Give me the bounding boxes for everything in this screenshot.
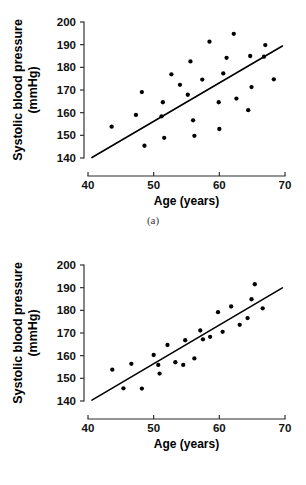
x-axis-tick-label: 50 (147, 179, 160, 191)
data-point (134, 113, 138, 117)
y-axis-title-line2: (mmHg) (26, 309, 40, 356)
data-point (186, 93, 190, 97)
y-axis-tick-label: 180 (57, 61, 76, 73)
data-point (249, 297, 253, 301)
data-point (229, 304, 233, 308)
data-point (192, 356, 196, 360)
panel-b: 14015016017018019020040506070Age (years)… (0, 243, 306, 485)
panel-a-caption: (a) (0, 214, 306, 226)
data-point (248, 54, 252, 58)
data-point (261, 306, 265, 310)
data-point (217, 127, 221, 131)
y-axis-tick-label: 200 (57, 16, 76, 28)
data-point (110, 368, 114, 372)
data-point (178, 83, 182, 87)
y-axis-tick-label: 150 (57, 129, 76, 141)
data-point (220, 330, 224, 334)
data-point (109, 125, 113, 129)
data-point (249, 85, 253, 89)
regression-line (92, 288, 282, 400)
data-point (224, 56, 228, 60)
y-axis-title-line1: Systolic blood pressure (11, 19, 25, 161)
data-point (165, 343, 169, 347)
plot-area: 14015016017018019020040506070Age (years)… (11, 259, 291, 451)
data-point (142, 144, 146, 148)
data-point (216, 310, 220, 314)
y-axis-title: Systolic blood pressure(mmHg) (11, 19, 40, 161)
data-point (234, 96, 238, 100)
y-axis-tick-label: 160 (57, 107, 76, 119)
data-point (188, 59, 192, 63)
data-point (159, 114, 163, 118)
data-point (129, 362, 133, 366)
data-point (200, 77, 204, 81)
y-axis-title: Systolic blood pressure(mmHg) (11, 262, 40, 404)
data-points (109, 32, 276, 148)
y-axis-tick-label: 160 (57, 350, 76, 362)
data-point (238, 323, 242, 327)
x-axis-tick-label: 50 (147, 422, 160, 434)
y-axis-tick-label: 190 (57, 39, 76, 51)
x-axis-tick-label: 60 (213, 422, 226, 434)
data-points (110, 282, 265, 391)
regression-line (92, 46, 282, 158)
data-point (208, 335, 212, 339)
scatter-plot-a: 14015016017018019020040506070Age (years)… (0, 0, 306, 214)
data-point (152, 353, 156, 357)
x-axis-title: Age (years) (154, 194, 219, 208)
data-point (245, 316, 249, 320)
data-point (192, 134, 196, 138)
plot-area: 14015016017018019020040506070Age (years)… (11, 16, 291, 208)
data-point (201, 337, 205, 341)
x-axis-tick-label: 60 (213, 179, 226, 191)
y-axis-title-line1: Systolic blood pressure (11, 262, 25, 404)
x-axis-title: Age (years) (154, 437, 219, 451)
data-point (263, 43, 267, 47)
data-point (183, 338, 187, 342)
data-point (162, 136, 166, 140)
x-axis-tick-label: 70 (279, 422, 292, 434)
data-point (246, 108, 250, 112)
data-point (121, 386, 125, 390)
y-axis-tick-label: 190 (57, 282, 76, 294)
y-axis-tick-label: 140 (57, 152, 76, 164)
x-axis-tick-label: 70 (279, 179, 292, 191)
data-point (198, 328, 202, 332)
y-axis-title-line2: (mmHg) (26, 66, 40, 113)
y-axis-tick-label: 150 (57, 372, 76, 384)
data-point (207, 40, 211, 44)
data-point (221, 71, 225, 75)
data-point (217, 100, 221, 104)
y-axis-tick-label: 170 (57, 327, 76, 339)
data-point (157, 371, 161, 375)
scatter-plot-b: 14015016017018019020040506070Age (years)… (0, 243, 306, 457)
y-axis-tick-label: 200 (57, 259, 76, 271)
y-axis-tick-label: 170 (57, 84, 76, 96)
data-point (262, 55, 266, 59)
data-point (253, 282, 257, 286)
data-point (156, 363, 160, 367)
data-point (140, 90, 144, 94)
data-point (191, 118, 195, 122)
y-axis-tick-label: 180 (57, 304, 76, 316)
panel-a: 14015016017018019020040506070Age (years)… (0, 0, 306, 242)
data-point (181, 363, 185, 367)
x-axis-tick-label: 40 (82, 422, 95, 434)
data-point (140, 386, 144, 390)
data-point (161, 100, 165, 104)
data-point (169, 72, 173, 76)
data-point (232, 32, 236, 36)
y-axis-tick-label: 140 (57, 395, 76, 407)
data-point (272, 77, 276, 81)
x-axis-tick-label: 40 (82, 179, 95, 191)
data-point (173, 360, 177, 364)
